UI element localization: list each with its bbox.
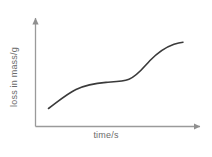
y-axis-label: loss in mass/g <box>9 35 19 119</box>
data-series-curve <box>49 42 184 108</box>
loss-in-mass-vs-time-chart: loss in mass/g time/s <box>0 0 212 157</box>
x-axis-label: time/s <box>0 130 212 140</box>
